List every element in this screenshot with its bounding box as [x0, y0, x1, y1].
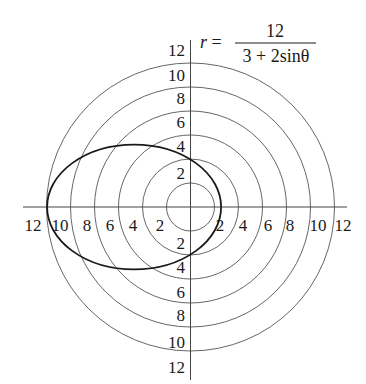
- equation-numerator: 12: [266, 21, 284, 41]
- y-tick-label: 12: [168, 41, 185, 60]
- y-tick-label: 8: [177, 89, 186, 108]
- x-tick-label: 2: [156, 216, 165, 235]
- y-tick-label: 10: [168, 333, 185, 352]
- y-tick-label: 12: [168, 358, 185, 377]
- x-tick-label: 6: [106, 216, 115, 235]
- x-tick-labels-left: 12 10 8 6 4 2: [25, 216, 165, 235]
- y-tick-label: 4: [177, 137, 186, 156]
- y-tick-label: 4: [177, 258, 186, 277]
- x-tick-label: 4: [129, 216, 138, 235]
- equation-lhs: r =: [200, 32, 222, 52]
- y-tick-label: 6: [177, 113, 186, 132]
- x-tick-label: 2: [216, 216, 225, 235]
- y-tick-label: 6: [177, 283, 186, 302]
- y-tick-labels-bottom: 2 4 6 8 10 12: [168, 234, 186, 377]
- x-tick-label: 8: [83, 216, 92, 235]
- x-tick-labels-right: 2 4 6 8 10 12: [216, 216, 352, 235]
- y-tick-label: 2: [177, 234, 186, 253]
- x-tick-label: 6: [264, 216, 273, 235]
- x-tick-label: 10: [310, 216, 327, 235]
- x-tick-label: 12: [335, 216, 352, 235]
- y-tick-label: 10: [168, 66, 185, 85]
- polar-chart: 12 10 8 6 4 2 2 4 6 8 10 12 12 10 8 6 4 …: [0, 0, 366, 384]
- equation-label: r = 12 3 + 2sinθ: [200, 21, 316, 66]
- equation-denominator: 3 + 2sinθ: [243, 46, 310, 66]
- x-tick-label: 10: [52, 216, 69, 235]
- x-tick-label: 8: [286, 216, 295, 235]
- x-tick-label: 4: [239, 216, 248, 235]
- y-tick-label: 2: [177, 164, 186, 183]
- y-tick-label: 8: [177, 306, 186, 325]
- x-tick-label: 12: [25, 216, 42, 235]
